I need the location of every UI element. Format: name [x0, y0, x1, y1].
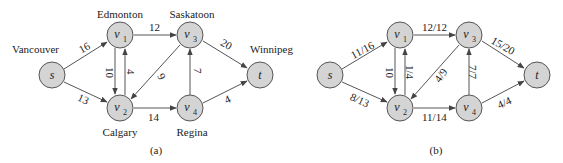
svg-text:3: 3	[193, 35, 197, 44]
node-v4: v 4	[177, 95, 203, 121]
node-v1: v 1	[107, 22, 133, 48]
edge-label-v3-v2: 9	[155, 71, 168, 82]
city-label-winnipeg: Winnipeg	[250, 43, 293, 55]
city-label-calgary: Calgary	[103, 126, 138, 138]
edge-v3-v2	[131, 45, 180, 99]
edge-label-v1-v2: 10	[104, 67, 116, 79]
svg-text:1: 1	[403, 35, 407, 44]
city-label-saskatoon: Saskatoon	[169, 8, 215, 20]
edge-label-v3-v2: 4/9	[432, 66, 450, 85]
edge-label-v1-v3: 12/12	[422, 21, 447, 33]
svg-text:v: v	[184, 27, 190, 41]
svg-text:1: 1	[123, 35, 127, 44]
edge-label-v3-t: 20	[219, 36, 235, 52]
svg-text:s: s	[50, 68, 55, 82]
edge-label-v4-v3: 7	[192, 68, 204, 74]
edge-label-v1-v3: 12	[149, 21, 160, 33]
svg-text:3: 3	[472, 35, 476, 44]
node-v4: v 4	[456, 95, 482, 121]
edge-label-v2-v1: 1/4	[404, 65, 416, 80]
edge-label-v4-t: 4/4	[495, 94, 513, 111]
edge-label-v2-v4: 14	[148, 111, 160, 123]
city-label-edmonton: Edmonton	[97, 8, 143, 20]
edge-label-v1-v2: 10	[384, 67, 396, 79]
svg-text:v: v	[114, 27, 120, 41]
city-label-regina: Regina	[176, 126, 207, 138]
svg-text:v: v	[463, 100, 469, 114]
caption-a: (a)	[150, 144, 163, 157]
flow-network-figure: 16 13 10 4 12 9 14 7 20 4 s v 1 v 2 v 3	[0, 0, 563, 163]
node-s: s	[317, 62, 343, 88]
edge-label-v3-t: 15/20	[489, 34, 517, 57]
node-t: t	[247, 62, 273, 88]
edge-label-v2-v4: 11/14	[422, 111, 447, 123]
edge-label-v2-v1: 4	[125, 69, 137, 75]
edge-label-v4-v3: 7/7	[467, 65, 479, 80]
svg-text:v: v	[463, 27, 469, 41]
diagram-b: 11/16 8/13 10 1/4 12/12 4/9 11/14 7/7 15…	[317, 21, 550, 157]
node-v1: v 1	[387, 22, 413, 48]
edge-label-v4-t: 4	[222, 92, 233, 105]
svg-text:v: v	[114, 100, 120, 114]
node-v3: v 3	[456, 22, 482, 48]
node-t: t	[524, 62, 550, 88]
caption-b: (b)	[430, 144, 443, 157]
svg-text:4: 4	[472, 108, 476, 117]
city-label-vancouver: Vancouver	[12, 43, 59, 55]
svg-text:v: v	[394, 27, 400, 41]
node-v2: v 2	[387, 95, 413, 121]
svg-text:2: 2	[123, 108, 127, 117]
node-v3: v 3	[177, 22, 203, 48]
node-s: s	[39, 62, 65, 88]
edge-label-s-v1: 11/16	[349, 39, 377, 61]
diagram-a: 16 13 10 4 12 9 14 7 20 4 s v 1 v 2 v 3	[12, 8, 293, 157]
svg-text:v: v	[394, 100, 400, 114]
node-v2: v 2	[107, 95, 133, 121]
svg-text:2: 2	[403, 108, 407, 117]
svg-text:4: 4	[193, 108, 197, 117]
svg-text:v: v	[184, 100, 190, 114]
svg-text:s: s	[328, 68, 333, 82]
